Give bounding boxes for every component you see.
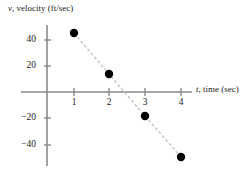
- data-point-marker: [141, 112, 149, 120]
- y-tick-label-40: 40: [8, 34, 36, 44]
- x-tick-label-3: 3: [138, 97, 152, 107]
- y-tick-label-minus-20: −20: [8, 112, 36, 122]
- data-point-marker: [105, 70, 113, 78]
- trend-dashed-line: [74, 33, 181, 157]
- x-axis-label: t, time (sec): [196, 84, 239, 94]
- x-tick-label-4: 4: [174, 97, 188, 107]
- y-tick-label-20: 20: [8, 60, 36, 70]
- y-axis-label-text: , velocity (ft/sec): [12, 3, 73, 13]
- data-point-marker: [70, 29, 78, 37]
- x-tick-label-2: 2: [102, 97, 116, 107]
- data-point-marker: [177, 153, 185, 161]
- y-axis-label: v, velocity (ft/sec): [8, 3, 73, 13]
- x-tick-label-1: 1: [67, 97, 81, 107]
- velocity-time-chart: v, velocity (ft/sec) t, time (sec) 40 20…: [0, 0, 250, 173]
- x-axis-label-text: , time (sec): [199, 84, 239, 94]
- y-tick-label-minus-40: −40: [8, 139, 36, 149]
